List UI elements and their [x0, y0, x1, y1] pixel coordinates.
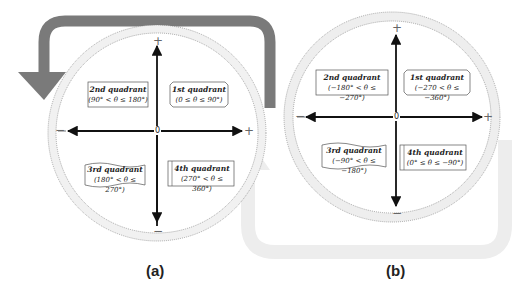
quadrant-2-label-a: 2nd quadrant (90° < θ ≤ 180°): [88, 85, 148, 105]
quadrant-name: 3rd quadrant: [85, 165, 145, 175]
axis-sign-left-b: −: [295, 110, 305, 122]
quadrant-4-label-b: 4th quadrant (0° ≤ θ ≤ −90°): [403, 148, 467, 168]
caption-a: (a): [146, 262, 164, 279]
axis-sign-right-b: +: [483, 111, 493, 123]
origin-label-b: 0: [393, 112, 400, 121]
quadrant-range: (0° ≤ θ ≤ −90°): [403, 158, 467, 168]
quadrant-2-label-b: 2nd quadrant (−180° < θ ≤ −270°): [316, 73, 388, 103]
quadrant-range: (0 ≤ θ ≤ 90°): [170, 95, 228, 105]
axis-sign-bottom-a: −: [153, 225, 163, 237]
quadrant-3-label-b: 3rd quadrant (−90° < θ ≤ −180°): [320, 146, 388, 176]
quadrant-range: (−180° < θ ≤ −270°): [316, 83, 388, 103]
axis-sign-left-a: −: [55, 124, 65, 136]
origin-label-a: 0: [154, 126, 161, 135]
diagram-canvas: [0, 0, 524, 292]
quadrant-name: 2nd quadrant: [316, 73, 388, 83]
quadrant-4-label-a: 4th quadrant (270° < θ ≤ 360°): [170, 164, 234, 194]
quadrant-range: (180° < θ ≤ 270°): [85, 175, 145, 195]
axis-sign-bottom-b: −: [392, 207, 402, 219]
quadrant-1-label-a: 1st quadrant (0 ≤ θ ≤ 90°): [170, 85, 228, 105]
axis-sign-top-a: +: [153, 35, 163, 47]
axis-sign-right-a: +: [244, 125, 254, 137]
quadrant-3-label-a: 3rd quadrant (180° < θ ≤ 270°): [85, 165, 145, 195]
quadrant-name: 2nd quadrant: [88, 85, 148, 95]
quadrant-range: (90° < θ ≤ 180°): [88, 95, 148, 105]
quadrant-range: (−90° < θ ≤ −180°): [320, 156, 388, 176]
quadrant-name: 3rd quadrant: [320, 146, 388, 156]
quadrant-name: 4th quadrant: [403, 148, 467, 158]
quadrant-name: 1st quadrant: [404, 73, 470, 83]
quadrant-range: (270° < θ ≤ 360°): [170, 174, 234, 194]
quadrant-name: 4th quadrant: [170, 164, 234, 174]
quadrant-1-label-b: 1st quadrant (−270 < θ ≤ −360°): [404, 73, 470, 103]
axis-sign-top-b: +: [392, 22, 402, 34]
quadrant-name: 1st quadrant: [170, 85, 228, 95]
quadrant-range: (−270 < θ ≤ −360°): [404, 83, 470, 103]
caption-b: (b): [386, 262, 405, 279]
unit-circle-b: [284, 12, 500, 222]
